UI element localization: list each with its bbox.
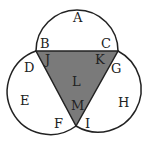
region-label-e: E	[20, 93, 30, 108]
region-label-m: M	[71, 98, 84, 113]
region-label-b: B	[40, 36, 50, 51]
region-label-h: H	[118, 95, 129, 110]
region-label-i: I	[85, 116, 90, 131]
region-diagram: ABCDJKGLEHMFI	[0, 0, 147, 150]
region-label-c: C	[101, 36, 111, 51]
region-label-a: A	[72, 10, 83, 25]
region-label-f: F	[54, 116, 63, 131]
region-label-d: D	[24, 60, 34, 75]
region-label-j: J	[43, 52, 50, 67]
region-label-k: K	[95, 52, 105, 67]
region-label-g: G	[111, 61, 121, 76]
region-label-l: L	[72, 74, 81, 89]
